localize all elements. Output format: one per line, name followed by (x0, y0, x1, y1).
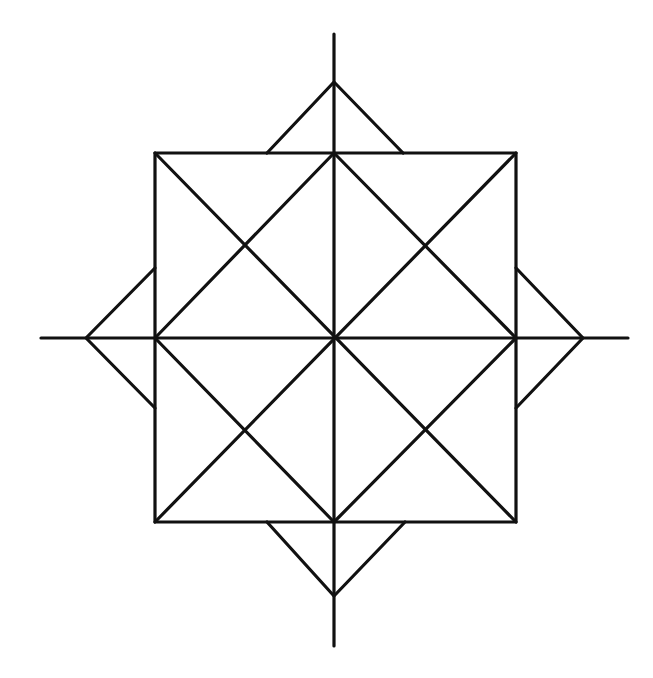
geometric-star-diagram (0, 0, 653, 678)
bottom-point (267, 522, 405, 596)
